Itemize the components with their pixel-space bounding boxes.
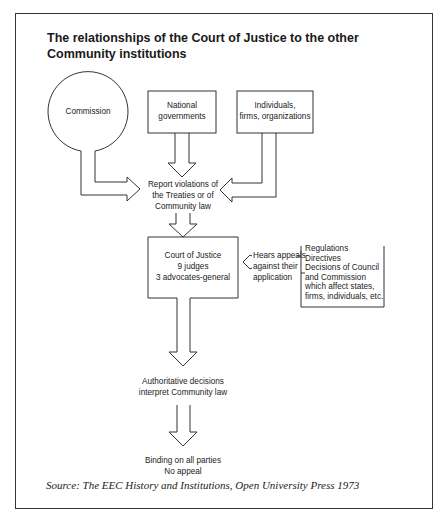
hears-line-1: Hears appeals xyxy=(253,250,306,261)
national-line-2: governments xyxy=(148,111,216,122)
source-caption: Source: The EEC History and Institutions… xyxy=(46,479,359,491)
report-line-1: Report violations of xyxy=(140,179,226,190)
report-line-3: Community law xyxy=(140,201,226,212)
legislation-line: which affect states, xyxy=(305,282,383,292)
individuals-label: Individuals, firms, organizations xyxy=(237,100,313,122)
individuals-line-2: firms, organizations xyxy=(237,111,313,122)
legislation-line: Decisions of Council xyxy=(305,263,383,273)
legislation-line: Regulations xyxy=(305,244,383,254)
hears-appeals-label: Hears appeals against their application xyxy=(253,250,306,283)
report-line-2: the Treaties or of xyxy=(140,190,226,201)
decisions-line-2: interpret Community law xyxy=(133,387,233,398)
court-of-justice-label: Court of Justice 9 judges 3 advocates-ge… xyxy=(148,250,238,283)
legislation-line: and Commission xyxy=(305,273,383,283)
national-governments-label: National governments xyxy=(148,100,216,122)
arrow-report-to-court xyxy=(169,213,197,237)
court-line-2: 9 judges xyxy=(148,261,238,272)
appeal-tick-top xyxy=(250,255,252,256)
legislation-label: Regulations Directives Decisions of Coun… xyxy=(305,244,383,302)
court-line-3: 3 advocates-general xyxy=(148,272,238,283)
arrow-court-to-decisions xyxy=(169,298,197,366)
hears-line-2: against their xyxy=(253,261,306,272)
arrow-decisions-to-binding xyxy=(169,405,197,446)
appeal-chevron-icon xyxy=(243,255,250,269)
individuals-line-1: Individuals, xyxy=(237,100,313,111)
arrow-commission-to-report xyxy=(81,151,140,201)
binding-line-1: Binding on all parties xyxy=(133,455,233,466)
binding-line-2: No appeal xyxy=(133,466,233,477)
legislation-line: firms, individuals, etc. xyxy=(305,292,383,302)
decisions-line-1: Authoritative decisions xyxy=(133,376,233,387)
hears-line-3: application xyxy=(253,272,306,283)
legislation-line: Directives xyxy=(305,254,383,264)
national-line-1: National xyxy=(148,100,216,111)
report-violations-label: Report violations of the Treaties or of … xyxy=(140,179,226,212)
arrow-national-to-report xyxy=(168,133,196,177)
appeal-tick-bottom xyxy=(250,268,252,269)
arrow-individuals-to-report xyxy=(220,133,276,202)
binding-label: Binding on all parties No appeal xyxy=(133,455,233,477)
authoritative-decisions-label: Authoritative decisions interpret Commun… xyxy=(133,376,233,398)
court-line-1: Court of Justice xyxy=(148,250,238,261)
commission-text: Commission xyxy=(65,107,110,116)
commission-label: Commission xyxy=(60,106,116,117)
